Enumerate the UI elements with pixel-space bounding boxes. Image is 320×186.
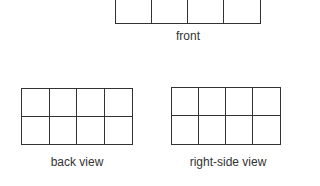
- grid-cell: [199, 116, 226, 144]
- right-side-view-label: right-side view: [190, 156, 267, 168]
- grid-cell: [253, 88, 280, 116]
- back-view-grid: [21, 88, 133, 145]
- front-view-grid: [115, 0, 261, 24]
- grid-cell: [172, 116, 199, 144]
- grid-cell: [152, 0, 188, 23]
- grid-cell: [105, 89, 133, 117]
- grid-cell: [226, 88, 253, 116]
- grid-cell: [224, 0, 260, 23]
- grid-cell: [226, 116, 253, 144]
- grid-cell: [50, 117, 78, 145]
- front-view-label: front: [176, 30, 200, 42]
- right-side-view-grid: [171, 87, 281, 145]
- grid-cell: [172, 88, 199, 116]
- grid-cell: [253, 116, 280, 144]
- grid-cell: [22, 117, 50, 145]
- grid-cell: [77, 89, 105, 117]
- grid-cell: [116, 0, 152, 23]
- grid-cell: [22, 89, 50, 117]
- grid-cell: [50, 89, 78, 117]
- grid-cell: [105, 117, 133, 145]
- grid-cell: [77, 117, 105, 145]
- back-view-label: back view: [51, 156, 104, 168]
- grid-cell: [199, 88, 226, 116]
- grid-cell: [188, 0, 224, 23]
